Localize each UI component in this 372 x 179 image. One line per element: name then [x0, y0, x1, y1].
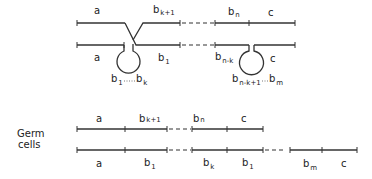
loop-bnk1-bm: [240, 45, 264, 75]
label-c: c: [341, 158, 347, 169]
label-a: a: [96, 158, 102, 169]
label-bm: bm: [303, 158, 317, 172]
label-bk: bk: [203, 157, 215, 171]
label-c: c: [270, 53, 276, 64]
label-bn: bn: [228, 6, 240, 19]
svg-text:bm: bm: [269, 73, 283, 87]
loop1-label: b1 bk: [111, 73, 148, 87]
loop-b1-bk: [117, 44, 140, 73]
label-c: c: [241, 113, 247, 124]
label-bk1: bk+1: [153, 4, 175, 17]
label-a: a: [96, 113, 102, 124]
svg-text:bn-k+1: bn-k+1: [232, 73, 261, 87]
loop2-label: bn-k+1 bm: [232, 73, 283, 87]
label-b1: b1: [242, 157, 254, 171]
germ-chromosome-2: [77, 147, 357, 153]
recombination-diagram: a bk+1 bn c a b1 bn-k c b1 bk bn-k+1 bm …: [0, 0, 372, 179]
label-b1: b1: [144, 157, 156, 171]
label-c: c: [268, 7, 274, 18]
label-b1: b1: [158, 52, 170, 66]
label-bk1: bk+1: [139, 113, 161, 124]
germ-chromosome-1: [77, 126, 263, 132]
label-bnk: bn-k: [215, 51, 234, 65]
label-bn: bn: [193, 113, 205, 124]
label-a: a: [94, 5, 100, 16]
svg-text:b1: b1: [111, 73, 123, 87]
top-chromosome-2: [77, 42, 295, 75]
label-a: a: [94, 52, 100, 63]
top-chromosome-1: [77, 20, 295, 45]
germ-cells-label: cells: [18, 139, 40, 150]
svg-text:bk: bk: [136, 73, 148, 87]
germ-cells-label: Germ: [17, 128, 45, 139]
